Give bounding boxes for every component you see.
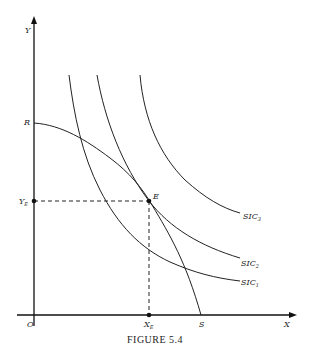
y-axis-arrow-icon (31, 16, 37, 24)
figure-caption: FIGURE 5.4 (127, 334, 183, 345)
point-r-label: R (23, 118, 30, 127)
origin-label: O (27, 320, 34, 329)
ye-point (32, 199, 37, 204)
figure-diagram: Y X O R S E YE XE SIC3 SIC2 SIC1 FIGURE … (0, 0, 309, 357)
ye-label: YE (19, 197, 28, 207)
equilibrium-point-e (147, 199, 152, 204)
xe-point (147, 313, 152, 318)
y-axis-label: Y (25, 26, 31, 35)
sic1-curve (69, 75, 240, 281)
xe-label: XE (143, 320, 154, 330)
x-axis-label: X (283, 320, 290, 329)
sic2-label: SIC2 (241, 259, 259, 269)
x-axis-arrow-icon (289, 312, 297, 318)
sic2-curve (97, 75, 240, 258)
sic3-label: SIC3 (243, 212, 261, 222)
sic1-label: SIC1 (241, 278, 259, 288)
point-s-label: S (199, 320, 205, 329)
point-e-label: E (152, 192, 159, 201)
